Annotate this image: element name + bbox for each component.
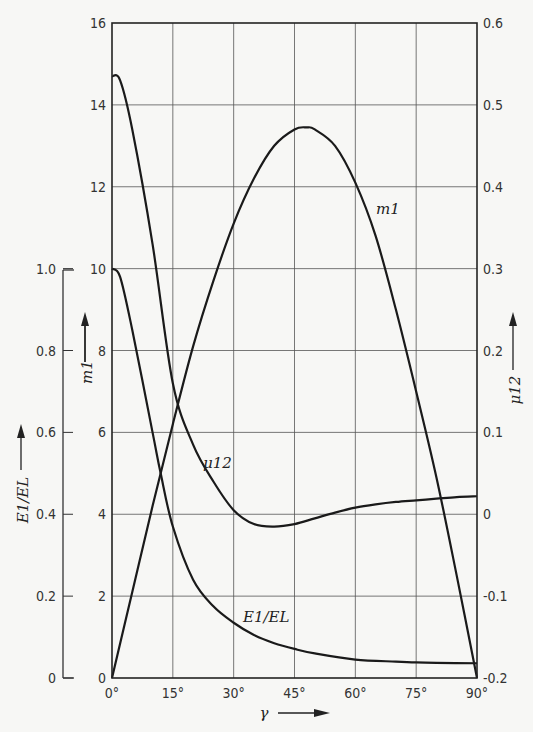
m1-tick-label: 8 <box>98 343 106 359</box>
mu12-tick-label: 0.2 <box>483 343 503 359</box>
mu12-tick-label: 0.1 <box>483 424 503 440</box>
m1-axis-arrow-icon <box>81 312 89 362</box>
e1el-axis-arrow-icon <box>17 424 25 470</box>
mu12-tick-label: -0.2 <box>483 670 508 686</box>
x-tick-label: 75° <box>405 685 427 701</box>
mu12-tick-label: -0.1 <box>483 588 508 604</box>
m1-tick-label: 4 <box>98 506 106 522</box>
mu12-axis-arrow-icon <box>509 312 517 370</box>
curve-label-e1el: E1/EL <box>242 608 289 626</box>
e1el-axis <box>63 270 74 678</box>
mu12-tick-label: 0 <box>483 506 491 522</box>
curve-label-m1: m1 <box>376 200 400 218</box>
tick-labels: 0°15°30°45°60°75°90°024681012141600.20.4… <box>36 15 508 701</box>
mu12-tick-label: 0.3 <box>483 261 503 277</box>
e1el-tick-label: 0.6 <box>36 424 56 440</box>
x-tick-label: 15° <box>162 685 184 701</box>
x-tick-label: 30° <box>223 685 245 701</box>
x-tick-label: 45° <box>283 685 305 701</box>
e1el-tick-label: 1.0 <box>36 261 56 277</box>
x-axis-title: γ <box>260 704 269 722</box>
mu12-tick-label: 0.4 <box>483 179 503 195</box>
gamma-axis-arrow-icon <box>278 709 330 717</box>
m1-tick-label: 14 <box>90 97 106 113</box>
m1-tick-label: 12 <box>90 179 106 195</box>
m1-tick-label: 0 <box>98 670 106 686</box>
m1-tick-label: 16 <box>90 15 106 31</box>
m1-tick-label: 2 <box>98 588 106 604</box>
m1-tick-label: 6 <box>98 424 106 440</box>
curve-label-mu12: μ12 <box>203 454 232 472</box>
mu12-tick-label: 0.6 <box>483 15 503 31</box>
x-tick-label: 0° <box>105 685 119 701</box>
right-axis-title: μ12 <box>506 376 524 405</box>
x-tick-label: 60° <box>344 685 366 701</box>
chart: 0°15°30°45°60°75°90°024681012141600.20.4… <box>0 0 533 732</box>
left-outer-axis-title: E1/EL <box>14 477 32 524</box>
m1-tick-label: 10 <box>90 261 106 277</box>
e1el-tick-label: 0.2 <box>36 588 56 604</box>
mu12-tick-label: 0.5 <box>483 97 503 113</box>
e1el-tick-label: 0.8 <box>36 343 56 359</box>
e1el-tick-label: 0.4 <box>36 506 56 522</box>
left-inner-axis-title: m1 <box>78 360 96 384</box>
x-tick-label: 90° <box>466 685 488 701</box>
e1el-tick-label: 0 <box>48 670 56 686</box>
